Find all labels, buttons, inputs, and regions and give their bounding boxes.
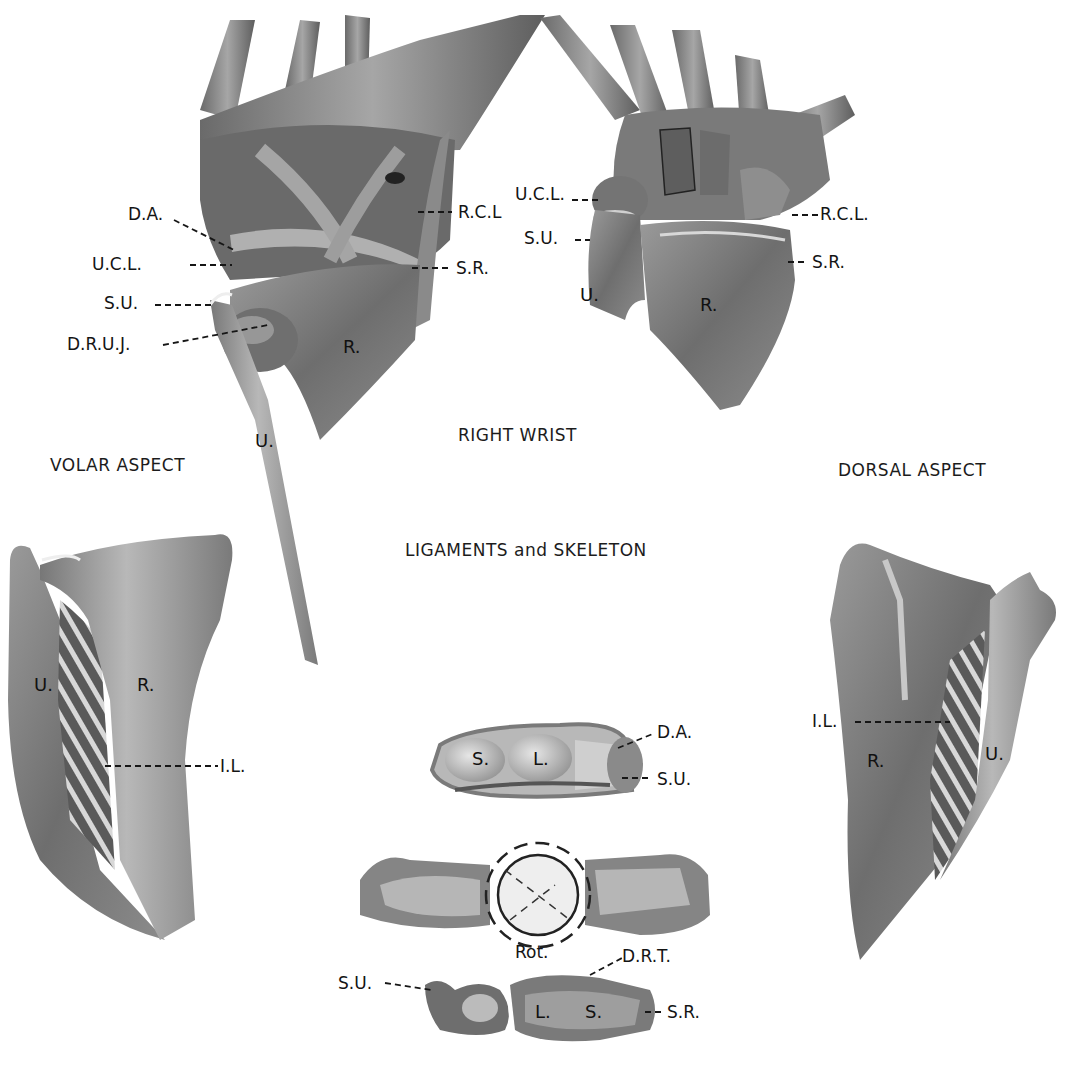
label-interosseous-ligament: I.L. (812, 713, 837, 730)
bone-label-radius: R. (137, 676, 155, 694)
bone-label-ulna: U. (985, 745, 1004, 763)
label-styloid-radius: S.R. (812, 254, 845, 271)
volar-aspect-caption: VOLAR ASPECT (50, 455, 185, 475)
volar-forearm-illustration (8, 534, 232, 940)
label-ulnar-collateral-ligament: U.C.L. (92, 256, 142, 273)
bone-label-ulna: U. (34, 676, 53, 694)
label-interosseous-ligament: I.L. (220, 758, 245, 775)
bone-label-lunate: L. (533, 750, 549, 768)
carpal-foramen (385, 172, 405, 184)
disc-articular (607, 737, 643, 793)
plate-title: RIGHT WRIST (458, 425, 577, 445)
plate-subtitle: LIGAMENTS and SKELETON (405, 540, 647, 560)
dorsal-forearm-illustration (830, 544, 1056, 960)
label-styloid-ulna: S.U. (104, 295, 138, 312)
label-rotation: Rot. (515, 944, 549, 961)
metacarpal (672, 30, 715, 120)
bone-label-radius: R. (867, 752, 885, 770)
label-styloid-ulna: S.U. (338, 975, 372, 992)
label-radial-collateral-ligament: R.C.L (458, 204, 501, 221)
label-styloid-radius: S.R. (456, 260, 489, 277)
dorsal-wrist-illustration (540, 15, 855, 410)
rotation-circle (498, 855, 578, 935)
label-radial-collateral-ligament: R.C.L. (820, 206, 869, 223)
volar-wrist-illustration (200, 15, 545, 665)
bone-label-radius: R. (700, 296, 718, 314)
bone-label-ulna: U. (580, 286, 599, 304)
label-styloid-radius: S.R. (667, 1004, 700, 1021)
bone-label-ulna: U. (255, 432, 274, 450)
label-distal-radioulnar-joint: D.R.U.J. (67, 336, 130, 353)
label-dorsal-aponeurosis: D.A. (657, 724, 692, 741)
anatomical-plate (0, 0, 1073, 1073)
label-styloid-ulna: S.U. (657, 771, 691, 788)
bone-label-radius: R. (343, 338, 361, 356)
radius-bone (640, 221, 795, 410)
label-ulnar-collateral-ligament: U.C.L. (515, 186, 565, 203)
label-styloid-ulna: S.U. (524, 230, 558, 247)
bone-label-scaphoid: S. (472, 750, 489, 768)
label-dorsal-radial-tubercle: D.R.T. (622, 948, 671, 965)
bone-label-scaphoid: S. (585, 1003, 602, 1021)
dorsal-aspect-caption: DORSAL ASPECT (838, 460, 986, 480)
bone-label-lunate: L. (535, 1003, 551, 1021)
label-dorsal-aponeurosis: D.A. (128, 206, 163, 223)
